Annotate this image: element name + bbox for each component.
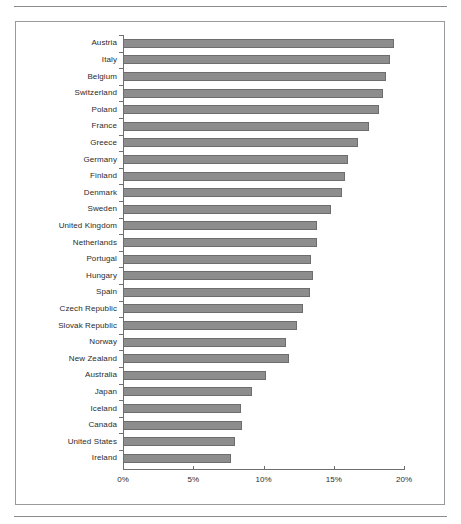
bar (123, 138, 358, 147)
figure-page: AustriaItalyBelgiumSwitzerlandPolandFran… (0, 0, 461, 524)
bar (123, 39, 394, 48)
bar (123, 55, 390, 64)
bar (123, 255, 311, 264)
x-axis-tick (193, 466, 194, 470)
category-label: Switzerland (16, 88, 117, 98)
category-label: Poland (16, 105, 117, 115)
category-label: Norway (16, 337, 117, 347)
bar (123, 188, 342, 197)
top-divider-rule (14, 6, 447, 7)
category-label: Portugal (16, 254, 117, 264)
bar (123, 271, 313, 280)
category-label: Japan (16, 387, 117, 397)
bar (123, 304, 303, 313)
category-label: Germany (16, 155, 117, 165)
bar (123, 155, 348, 164)
category-label: Australia (16, 370, 117, 380)
category-label: Spain (16, 287, 117, 297)
bar (123, 205, 331, 214)
bar (123, 338, 286, 347)
category-label: Greece (16, 138, 117, 148)
x-axis-tick (264, 466, 265, 470)
category-label: Denmark (16, 188, 117, 198)
bar (123, 105, 379, 114)
bar (123, 421, 242, 430)
x-axis-tick-label: 5% (173, 475, 213, 485)
category-label: New Zealand (16, 354, 117, 364)
x-axis-tick (334, 466, 335, 470)
x-axis-tick-label: 10% (244, 475, 284, 485)
bar (123, 172, 345, 181)
bar (123, 404, 241, 413)
x-axis-tick-label: 20% (384, 475, 424, 485)
category-label: Hungary (16, 271, 117, 281)
chart-frame: AustriaItalyBelgiumSwitzerlandPolandFran… (15, 21, 445, 505)
category-label: France (16, 121, 117, 131)
x-axis-tick (404, 466, 405, 470)
horizontal-bar-chart: AustriaItalyBelgiumSwitzerlandPolandFran… (16, 22, 444, 504)
plot-area: AustriaItalyBelgiumSwitzerlandPolandFran… (16, 22, 444, 504)
category-label: Netherlands (16, 238, 117, 248)
category-label: Belgium (16, 72, 117, 82)
category-label: Sweden (16, 204, 117, 214)
bar (123, 221, 317, 230)
category-label: Finland (16, 171, 117, 181)
category-label: United States (16, 437, 117, 447)
category-label: Canada (16, 420, 117, 430)
bar (123, 354, 289, 363)
bar (123, 454, 231, 463)
bar (123, 321, 297, 330)
bar (123, 122, 369, 131)
category-label: Slovak Republic (16, 321, 117, 331)
bottom-divider-rule (14, 516, 447, 517)
category-label: United Kingdom (16, 221, 117, 231)
y-axis-line (123, 35, 124, 469)
category-label: Ireland (16, 453, 117, 463)
category-label: Austria (16, 38, 117, 48)
bar (123, 387, 252, 396)
x-axis-tick-label: 0% (103, 475, 143, 485)
category-label: Czech Republic (16, 304, 117, 314)
bar (123, 238, 317, 247)
bar (123, 437, 235, 446)
x-axis-tick-label: 15% (314, 475, 354, 485)
x-axis-tick (123, 466, 124, 470)
bar (123, 89, 383, 98)
category-label: Italy (16, 55, 117, 65)
bar (123, 72, 386, 81)
bar (123, 371, 266, 380)
bar (123, 288, 310, 297)
category-label: Iceland (16, 404, 117, 414)
